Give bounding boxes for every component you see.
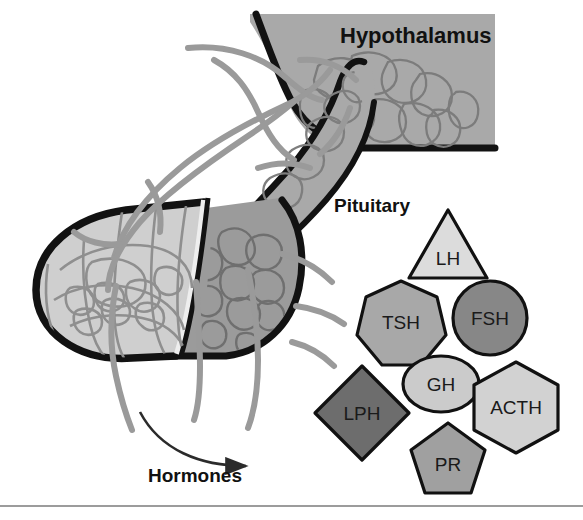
pituitary-label: Pituitary xyxy=(334,195,410,216)
pituitary-hormone-diagram: Hypothalamus Pituitary Hormones LH TSH F… xyxy=(0,0,583,520)
hormone-shape-lh[interactable]: LH xyxy=(409,210,487,278)
hypothalamus-label: Hypothalamus xyxy=(340,23,492,48)
lph-label: LPH xyxy=(344,403,381,424)
hormone-shape-fsh[interactable]: FSH xyxy=(453,281,527,355)
acth-label: ACTH xyxy=(490,397,542,418)
tsh-label: TSH xyxy=(382,312,420,333)
gh-label: GH xyxy=(427,374,456,395)
hormone-shape-gh[interactable]: GH xyxy=(403,356,479,412)
diagram-canvas: Hypothalamus Pituitary Hormones LH TSH F… xyxy=(0,0,583,520)
hormone-shapes-group: LH TSH FSH GH ACTH xyxy=(315,210,558,493)
hormone-shape-tsh[interactable]: TSH xyxy=(357,281,446,365)
hormones-label: Hormones xyxy=(148,465,242,486)
fsh-label: FSH xyxy=(471,308,509,329)
hormone-shape-pr[interactable]: PR xyxy=(411,423,485,493)
hormone-shape-lph[interactable]: LPH xyxy=(315,366,409,460)
hormone-shape-acth[interactable]: ACTH xyxy=(474,362,558,453)
anterior-lobe xyxy=(36,198,208,358)
lh-label: LH xyxy=(436,248,460,269)
pr-label: PR xyxy=(435,454,461,475)
